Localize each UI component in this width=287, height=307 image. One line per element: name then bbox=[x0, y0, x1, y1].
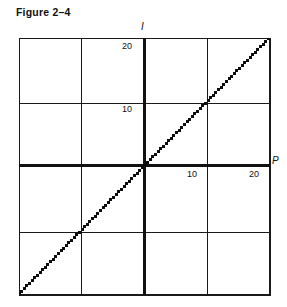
plot-area: 20 10 10 20 I P bbox=[19, 38, 270, 295]
axis-label-i: I bbox=[141, 21, 144, 32]
axis-horizontal-p bbox=[19, 164, 270, 167]
axis-label-p: P bbox=[272, 155, 279, 166]
figure-container: Figure 2–4 20 10 10 20 I P bbox=[0, 0, 287, 307]
tick-label-x-20: 20 bbox=[249, 169, 259, 179]
tick-label-x-10: 10 bbox=[187, 169, 197, 179]
tick-label-y-10: 10 bbox=[122, 104, 132, 114]
tick-label-y-20: 20 bbox=[122, 41, 132, 51]
figure-title: Figure 2–4 bbox=[16, 6, 71, 18]
